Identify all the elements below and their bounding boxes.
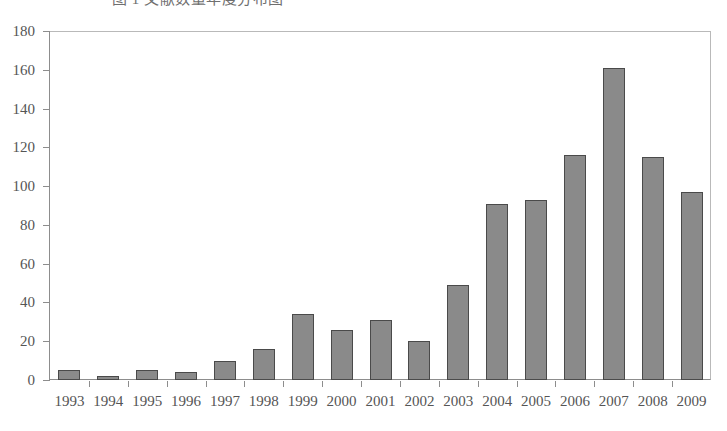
x-axis-tick-label-2004: 2004: [482, 392, 512, 410]
x-axis-tick-mark: [206, 381, 207, 387]
x-axis-tick-mark: [128, 381, 129, 387]
x-axis-tick-mark: [439, 381, 440, 387]
x-axis-tick-label-2005: 2005: [521, 392, 551, 410]
x-axis-tick-label-2001: 2001: [366, 392, 396, 410]
x-axis-tick-mark: [478, 381, 479, 387]
bar-2003: [447, 285, 469, 380]
x-axis-tick-label-2000: 2000: [327, 392, 357, 410]
bar-2009: [681, 192, 703, 380]
x-axis-tick-mark: [672, 381, 673, 387]
x-axis-tick-label-1995: 1995: [132, 392, 162, 410]
bar-2005: [525, 200, 547, 380]
bar-1997: [214, 361, 236, 380]
bar-2004: [486, 204, 508, 380]
bar-2002: [408, 341, 430, 380]
x-axis-tick-label-2003: 2003: [443, 392, 473, 410]
x-axis-tick-mark: [400, 381, 401, 387]
bars-series: [50, 31, 711, 380]
x-axis-tick-label-1993: 1993: [54, 392, 84, 410]
x-axis-tick-mark: [633, 381, 634, 387]
x-axis-tick-label-1996: 1996: [171, 392, 201, 410]
x-axis-labels: 1993199419951996199719981999200020012002…: [0, 392, 727, 416]
bar-2000: [331, 330, 353, 380]
x-axis-tick-mark: [244, 381, 245, 387]
bar-1995: [136, 370, 158, 380]
bar-2008: [642, 157, 664, 380]
x-axis-tick-mark: [322, 381, 323, 387]
bar-chart: 020406080100120140160180 199319941995199…: [0, 0, 727, 431]
x-axis-tick-mark: [555, 381, 556, 387]
bar-1999: [292, 314, 314, 380]
x-axis-tick-mark: [517, 381, 518, 387]
x-axis-tick-mark: [361, 381, 362, 387]
x-axis-tick-mark: [89, 381, 90, 387]
x-axis-tick-label-1998: 1998: [249, 392, 279, 410]
x-axis-tick-label-1994: 1994: [93, 392, 123, 410]
bar-2001: [370, 320, 392, 380]
x-axis-tick-mark: [283, 381, 284, 387]
x-axis-tick-label-2006: 2006: [560, 392, 590, 410]
bar-1998: [253, 349, 275, 380]
x-axis-tick-label-2008: 2008: [638, 392, 668, 410]
x-axis-tick-label-2009: 2009: [677, 392, 707, 410]
bar-2006: [564, 155, 586, 380]
x-axis-tick-label-1997: 1997: [210, 392, 240, 410]
x-axis-tick-mark: [167, 381, 168, 387]
x-axis-tick-mark: [594, 381, 595, 387]
x-axis-tick-label-2007: 2007: [599, 392, 629, 410]
bar-1994: [97, 376, 119, 380]
x-axis-tick-label-1999: 1999: [288, 392, 318, 410]
bar-1993: [58, 370, 80, 380]
bar-2007: [603, 68, 625, 380]
x-axis-tick-label-2002: 2002: [404, 392, 434, 410]
bar-1996: [175, 372, 197, 380]
